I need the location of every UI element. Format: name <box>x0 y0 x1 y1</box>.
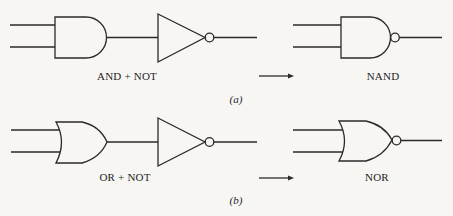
combo-label-a: AND + NOT <box>97 70 157 82</box>
right-arrow-icon <box>259 74 294 79</box>
and-gate <box>10 17 107 58</box>
inversion-bubble-icon <box>391 33 400 42</box>
not-gate <box>158 14 257 62</box>
inversion-bubble-icon <box>205 33 214 42</box>
result-label-b: NOR <box>365 171 389 183</box>
part-label-a: (a) <box>230 93 243 105</box>
inversion-bubble-icon <box>205 138 214 147</box>
or-gate <box>11 122 107 163</box>
nor-gate <box>293 121 442 161</box>
part-label-a-text: (a) <box>230 93 243 105</box>
part-label-b: (b) <box>230 194 243 206</box>
right-arrow-icon <box>259 176 294 181</box>
not-gate <box>158 118 257 166</box>
nand-gate <box>293 17 442 58</box>
result-label-a: NAND <box>367 70 400 82</box>
combo-label-b: OR + NOT <box>99 171 150 183</box>
panel-a <box>10 14 442 79</box>
inversion-bubble-icon <box>392 136 401 145</box>
part-label-b-text: (b) <box>230 194 243 206</box>
logic-gate-diagram <box>0 0 453 216</box>
